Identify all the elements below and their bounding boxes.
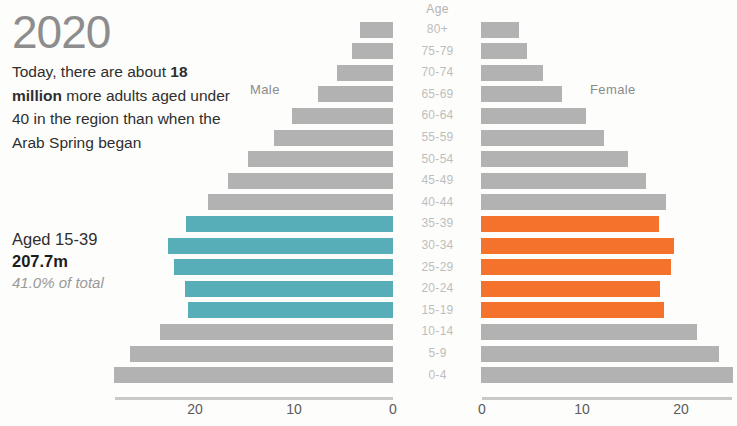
female-axis-tick: 0	[462, 401, 502, 417]
female-bar	[481, 324, 697, 340]
pyramid-rows: 80+75-7970-7465-6960-6455-5950-5445-4940…	[0, 19, 737, 386]
male-bar	[360, 22, 393, 38]
female-bar	[481, 173, 646, 189]
male-axis-rule	[115, 397, 393, 400]
age-band-label: 65-69	[393, 84, 482, 106]
age-band-label: 60-64	[393, 105, 482, 127]
pyramid-row: 60-64	[0, 105, 737, 127]
female-bar	[481, 281, 660, 297]
male-axis-tick: 20	[175, 401, 215, 417]
male-bar	[318, 86, 393, 102]
male-bar	[130, 346, 393, 362]
male-axis-tick: 10	[274, 401, 314, 417]
age-band-label: 40-44	[393, 192, 482, 214]
age-band-label: 45-49	[393, 170, 482, 192]
age-band-label: 20-24	[393, 278, 482, 300]
age-axis-header: Age	[393, 2, 482, 16]
female-axis-tick: 20	[661, 401, 701, 417]
male-bar	[168, 238, 393, 254]
pyramid-row: 70-74	[0, 62, 737, 84]
female-bar	[481, 130, 604, 146]
pyramid-row: 5-9	[0, 343, 737, 365]
pyramid-row: 40-44	[0, 192, 737, 214]
female-bar	[481, 22, 519, 38]
pyramid-row: 65-69	[0, 84, 737, 106]
male-bar	[228, 173, 393, 189]
age-band-label: 55-59	[393, 127, 482, 149]
female-axis-rule	[482, 397, 732, 400]
female-axis-tick: 10	[562, 401, 602, 417]
pyramid-row: 0-4	[0, 365, 737, 387]
female-bar	[481, 65, 543, 81]
age-band-label: 15-19	[393, 300, 482, 322]
male-bar	[337, 65, 393, 81]
female-bar	[481, 194, 666, 210]
female-bar	[481, 346, 719, 362]
male-bar	[114, 367, 393, 383]
age-band-label: 75-79	[393, 41, 482, 63]
female-bar	[481, 259, 671, 275]
age-band-label: 25-29	[393, 257, 482, 279]
pyramid-row: 55-59	[0, 127, 737, 149]
female-bar	[481, 367, 733, 383]
age-band-label: 35-39	[393, 213, 482, 235]
pyramid-row: 20-24	[0, 278, 737, 300]
age-band-label: 80+	[393, 19, 482, 41]
male-bar	[186, 216, 393, 232]
age-band-label: 30-34	[393, 235, 482, 257]
female-bar	[481, 86, 562, 102]
age-band-label: 10-14	[393, 321, 482, 343]
female-bar	[481, 302, 664, 318]
female-bar	[481, 238, 674, 254]
male-bar	[248, 151, 393, 167]
age-band-label: 0-4	[393, 365, 482, 387]
male-bar	[274, 130, 393, 146]
male-axis-tick: 0	[373, 401, 413, 417]
male-bar	[174, 259, 393, 275]
female-bar	[481, 108, 586, 124]
pyramid-row: 15-19	[0, 300, 737, 322]
pyramid-row: 35-39	[0, 213, 737, 235]
female-bar	[481, 151, 628, 167]
male-bar	[208, 194, 393, 210]
male-bar	[352, 43, 393, 59]
age-band-label: 5-9	[393, 343, 482, 365]
pyramid-row: 10-14	[0, 321, 737, 343]
pyramid-row: 45-49	[0, 170, 737, 192]
age-band-label: 50-54	[393, 149, 482, 171]
male-bar	[188, 302, 393, 318]
pyramid-row: 75-79	[0, 41, 737, 63]
pyramid-row: 30-34	[0, 235, 737, 257]
pyramid-row: 25-29	[0, 257, 737, 279]
age-band-label: 70-74	[393, 62, 482, 84]
male-bar	[160, 324, 393, 340]
population-pyramid-chart: 2020 Today, there are about 18 million m…	[0, 0, 737, 426]
pyramid-row: 80+	[0, 19, 737, 41]
male-bar	[292, 108, 393, 124]
male-bar	[185, 281, 393, 297]
pyramid-row: 50-54	[0, 149, 737, 171]
female-bar	[481, 216, 659, 232]
female-bar	[481, 43, 527, 59]
